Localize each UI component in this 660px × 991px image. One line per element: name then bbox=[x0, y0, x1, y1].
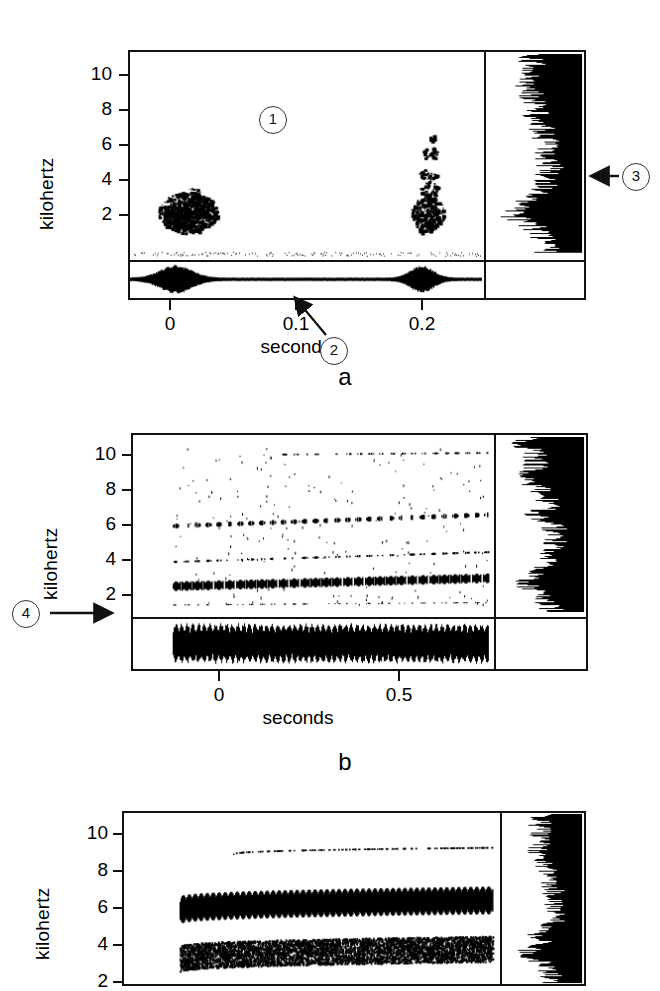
panel-b-xtick-label-0: 0 bbox=[189, 684, 249, 706]
panel-b-ytick-label-2: 2 bbox=[82, 583, 116, 605]
callout-2-arrow-icon bbox=[288, 291, 358, 341]
panel-c-ytick-label-10: 10 bbox=[74, 822, 108, 844]
callout-4: 4 bbox=[12, 600, 40, 628]
panel-c-spectrum-divider bbox=[500, 811, 502, 986]
panel-b-x-axis-title: seconds bbox=[238, 707, 358, 729]
panel-b-ytick-label-4: 4 bbox=[82, 548, 116, 570]
panel-a-xtick-label-0.2: 0.2 bbox=[392, 313, 452, 335]
panel-b-spectrogram-frame bbox=[131, 433, 588, 671]
panel-b-spectrogram-canvas bbox=[133, 435, 586, 669]
panel-c-ytick-label-8: 8 bbox=[74, 859, 108, 881]
panel-b-spectrum-divider bbox=[494, 433, 496, 671]
panel-a-xtick-mark bbox=[421, 300, 423, 310]
panel-a-ytick-label-4: 4 bbox=[78, 168, 112, 190]
panel-c-spectrogram-frame bbox=[122, 811, 586, 986]
callout-4-arrow-icon bbox=[44, 603, 116, 623]
panel-a-xtick-mark bbox=[169, 300, 171, 310]
panel-a-ytick-label-10: 10 bbox=[78, 63, 112, 85]
panel-a-ytick-label-2: 2 bbox=[78, 203, 112, 225]
panel-c-ytick-label-2: 2 bbox=[74, 970, 108, 991]
panel-a-letter: a bbox=[315, 363, 375, 391]
panel-a-y-axis-title: kilohertz bbox=[36, 157, 58, 230]
panel-b-xtick-mark bbox=[398, 671, 400, 681]
panel-b-y-axis-title: kilohertz bbox=[40, 527, 62, 600]
panel-c-ytick-label-6: 6 bbox=[74, 896, 108, 918]
panel-c-spectrogram-canvas bbox=[124, 813, 584, 984]
panel-b-ytick-label-10: 10 bbox=[82, 443, 116, 465]
panel-a-spectrogram-frame bbox=[128, 50, 586, 300]
panel-c-y-axis-title: kilohertz bbox=[32, 887, 54, 960]
callout-1: 1 bbox=[259, 106, 287, 134]
panel-c-ytick-label-4: 4 bbox=[74, 933, 108, 955]
panel-b-ytick-label-8: 8 bbox=[82, 478, 116, 500]
panel-a-oscillogram-separator bbox=[128, 260, 586, 262]
panel-b-oscillogram-separator bbox=[131, 617, 588, 619]
panel-b-xtick-label-0.5: 0.5 bbox=[369, 684, 429, 706]
callout-3-arrow-icon bbox=[588, 166, 626, 186]
callout-2: 2 bbox=[320, 337, 348, 365]
panel-a-xtick-label-0: 0 bbox=[140, 313, 200, 335]
panel-a-spectrum-divider bbox=[484, 50, 486, 300]
panel-a-ytick-label-8: 8 bbox=[78, 98, 112, 120]
panel-b-xtick-mark bbox=[218, 671, 220, 681]
callout-3: 3 bbox=[622, 163, 650, 191]
panel-b-ytick-label-6: 6 bbox=[82, 513, 116, 535]
panel-b-letter: b bbox=[315, 748, 375, 776]
panel-a-ytick-label-6: 6 bbox=[78, 133, 112, 155]
